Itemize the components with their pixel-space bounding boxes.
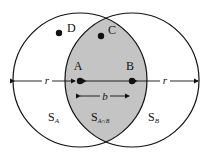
svg-text:SB: SB (148, 110, 160, 125)
label-r-left: r (45, 74, 50, 86)
label-r-right: r (163, 74, 168, 86)
point-c (98, 33, 104, 39)
svg-text:SA: SA (48, 110, 60, 125)
label-d: D (67, 21, 76, 35)
venn-diagram: A B C D r r b SA SA∩B SB (0, 0, 211, 157)
label-b: b (102, 90, 108, 102)
point-d (56, 30, 62, 36)
label-b: B (126, 59, 134, 73)
label-a: A (74, 59, 83, 73)
point-b (129, 78, 135, 84)
label-s-a: SA (48, 110, 60, 125)
label-s-b: SB (148, 110, 160, 125)
label-c: C (108, 23, 116, 37)
point-a (77, 78, 83, 84)
